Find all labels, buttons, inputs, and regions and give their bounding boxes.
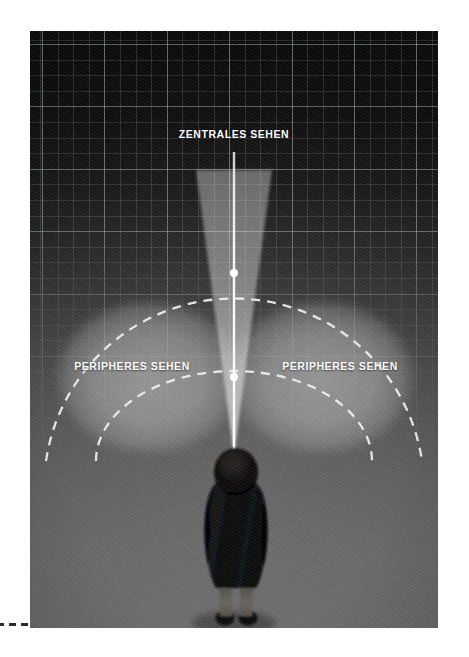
label-peripheral-vision-left: PERIPHERES SEHEN <box>60 360 204 372</box>
registration-dash-2 <box>9 623 16 626</box>
person-hair-crown <box>220 454 244 474</box>
label-peripheral-vision-right: PERIPHERES SEHEN <box>265 360 415 372</box>
registration-dash-1 <box>0 623 4 626</box>
print-registration-dashes <box>0 621 30 629</box>
gaze-marker-far <box>230 269 238 277</box>
gaze-axis-line <box>233 152 235 461</box>
illustration-panel: ZENTRALES SEHEN PERIPHERES SEHEN PERIPHE… <box>30 31 438 628</box>
person-standing-top-down <box>198 446 274 628</box>
label-central-vision: ZENTRALES SEHEN <box>30 128 438 140</box>
figure-root: ZENTRALES SEHEN PERIPHERES SEHEN PERIPHE… <box>0 0 469 657</box>
registration-dash-3 <box>21 623 28 626</box>
gaze-marker-near <box>230 373 238 381</box>
